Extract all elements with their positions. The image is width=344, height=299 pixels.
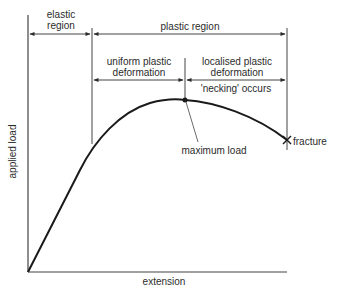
load-extension-curve [28, 99, 287, 272]
uniform-label-line2: deformation [98, 67, 180, 78]
uniform-deformation-label: uniform plastic deformation [98, 56, 180, 78]
plastic-region-label: plastic region [150, 21, 230, 32]
fracture-label: fracture [293, 136, 327, 147]
y-axis-label: applied load [7, 122, 18, 182]
elastic-region-label: elastic region [38, 9, 84, 31]
x-axis-label: extension [134, 276, 194, 287]
elastic-label-line2: region [38, 20, 84, 31]
load-extension-diagram: elastic region plastic region uniform pl… [0, 0, 344, 299]
uniform-label-line1: uniform plastic [98, 56, 180, 67]
localised-label-line1: localised plastic [192, 56, 282, 67]
elastic-label-line1: elastic [38, 9, 84, 20]
localised-label-line2: deformation [192, 67, 282, 78]
diagram-canvas [0, 0, 344, 299]
localised-deformation-label: localised plastic deformation [192, 56, 282, 78]
max-load-pointer [186, 102, 198, 142]
max-load-point [183, 98, 188, 103]
maximum-load-label: maximum load [178, 145, 250, 156]
necking-label: 'necking' occurs [196, 83, 276, 94]
